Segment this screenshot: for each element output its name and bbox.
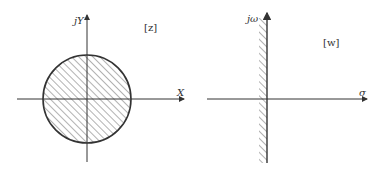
z-plane-label: [z]	[144, 22, 157, 33]
z-plane: jY [z] X	[17, 15, 185, 162]
w-imag-axis-label: jω	[245, 13, 258, 24]
w-plane-label: [w]	[323, 37, 339, 48]
conformal-mapping-diagram: jY [z] X jω [w] σ	[0, 0, 378, 176]
w-plane: jω [w] σ	[207, 13, 367, 163]
w-real-axis-label: σ	[359, 87, 367, 98]
z-real-axis-label: X	[176, 87, 185, 98]
left-half-plane-hatch	[259, 18, 267, 163]
z-imag-axis-label: jY	[72, 15, 85, 26]
